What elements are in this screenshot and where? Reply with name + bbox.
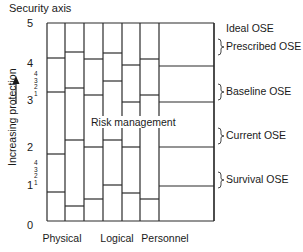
- category-label: Logical: [100, 232, 133, 244]
- ose-level-label: Survival OSE: [226, 173, 288, 185]
- brace-icon: [218, 39, 224, 55]
- y-tick-label: 0: [27, 219, 33, 231]
- subtick: 1: [34, 180, 38, 187]
- y-tick-label: 1: [27, 179, 33, 191]
- ose-level-label: Current OSE: [226, 129, 286, 141]
- subtick: 1: [34, 91, 38, 98]
- y-axis-label: Increasing protection: [6, 69, 18, 166]
- y-tick-label: 4: [27, 57, 33, 69]
- subticks-upper: 4 3 2 1: [34, 71, 38, 97]
- category-label: Physical: [42, 232, 81, 244]
- y-tick-label: 5: [27, 17, 33, 29]
- risk-management-label: Risk management: [90, 116, 177, 128]
- ose-level-label: Baseline OSE: [226, 85, 291, 97]
- brace-icon: [218, 128, 224, 144]
- brace-icon: [218, 84, 224, 100]
- ose-level-label: Prescribed OSE: [226, 40, 301, 52]
- y-tick-label: 3: [27, 94, 33, 106]
- y-tick-label: 2: [27, 141, 33, 153]
- brace-icon: [218, 172, 224, 188]
- y-axis-label-text: Increasing protection: [6, 69, 18, 166]
- category-label: Personnel: [141, 232, 188, 244]
- axis-title: Security axis: [9, 2, 71, 14]
- subticks-lower: 4 3 2 1: [34, 160, 38, 186]
- ose-level-label: Ideal OSE: [226, 22, 274, 34]
